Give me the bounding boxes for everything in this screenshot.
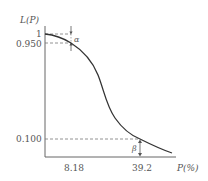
y-tick-0950: 0.950 <box>16 39 42 49</box>
oc-curve-chart: L(P) 1 0.950 0.100 8.18 39.2 P(%) α β <box>0 0 208 181</box>
y-axis-label: L(P) <box>19 15 40 25</box>
y-tick-1: 1 <box>36 29 42 39</box>
x-axis-label: P(%) <box>176 163 199 173</box>
x-tick-392: 39.2 <box>132 163 152 173</box>
alpha-label: α <box>74 35 80 44</box>
x-tick-818: 8.18 <box>64 163 84 173</box>
oc-curve <box>45 34 172 153</box>
y-tick-0100: 0.100 <box>16 134 42 144</box>
beta-label: β <box>131 144 137 153</box>
